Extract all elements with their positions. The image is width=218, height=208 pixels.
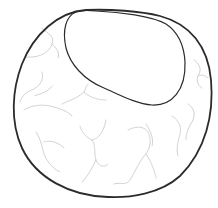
cell-svg bbox=[0, 0, 218, 208]
nucleus bbox=[64, 10, 185, 105]
cell-diagram bbox=[0, 0, 218, 208]
